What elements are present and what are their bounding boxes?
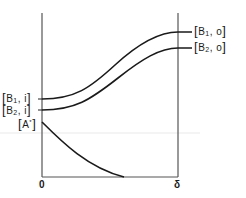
x-tick-zero: 0 [39,179,45,190]
curve-b2 [42,48,192,110]
label-b2-outer: [B2, o] [194,41,226,56]
label-b1-outer: [B1, o] [194,25,226,40]
curve-a-star [42,122,124,177]
label-a-star: [A*] [18,116,36,131]
curve-b1 [42,32,192,99]
x-tick-delta: δ [174,179,180,190]
